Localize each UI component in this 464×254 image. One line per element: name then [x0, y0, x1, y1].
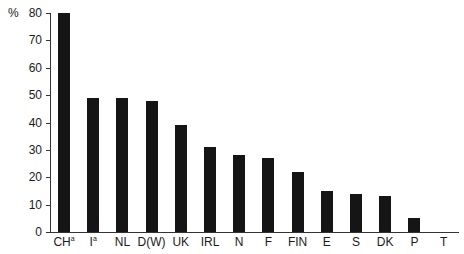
bar: [233, 155, 245, 232]
bar: [408, 218, 420, 232]
bar-chart: % 01020304050607080 CHaIaNLD(W)UKIRLNFFI…: [0, 0, 464, 254]
bar: [175, 125, 187, 232]
bar: [321, 191, 333, 232]
x-tick-label: T: [424, 235, 464, 249]
y-tick-label: 30: [22, 144, 42, 156]
y-tick-label: 0: [22, 226, 42, 238]
bar: [146, 101, 158, 232]
bar: [58, 13, 70, 232]
y-tick-label: 40: [22, 117, 42, 129]
y-tick-label: 80: [22, 7, 42, 19]
y-tick-label: 50: [22, 89, 42, 101]
y-tick-label: 20: [22, 171, 42, 183]
bar: [204, 147, 216, 232]
bar: [262, 158, 274, 232]
y-tick-label: 10: [22, 199, 42, 211]
bar: [379, 196, 391, 232]
y-tick-label: 60: [22, 62, 42, 74]
y-tick-label: 70: [22, 34, 42, 46]
bar: [292, 172, 304, 232]
x-axis-line: [50, 232, 459, 233]
bar: [87, 98, 99, 232]
y-axis-label: %: [8, 6, 19, 20]
bar: [116, 98, 128, 232]
bar: [350, 194, 362, 232]
y-axis-line: [50, 13, 51, 233]
